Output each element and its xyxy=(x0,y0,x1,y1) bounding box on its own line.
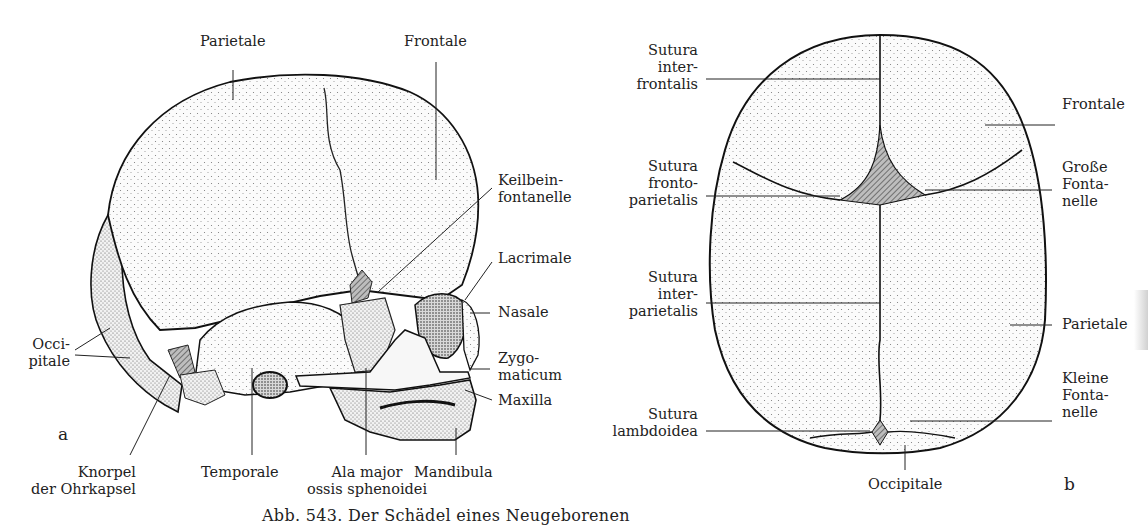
label-knorpel-ohrkapsel: Knorpel der Ohrkapsel xyxy=(26,464,136,498)
label-occipitale-b: Occipitale xyxy=(868,476,942,493)
label-ala-major: Ala major ossis sphenoidei xyxy=(304,464,430,498)
label-nasale: Nasale xyxy=(498,304,549,321)
nasal-bone xyxy=(462,300,479,370)
label-mandibula: Mandibula xyxy=(414,464,493,481)
label-frontale-b: Frontale xyxy=(1062,96,1125,113)
superior-skull xyxy=(710,35,1046,453)
label-grosse-fontanelle: Große Fonta- nelle xyxy=(1062,159,1109,210)
label-sutura-frontoparietalis: Sutura fronto- parietalis xyxy=(612,158,698,209)
ear-opening xyxy=(253,372,287,398)
label-parietale-b: Parietale xyxy=(1062,316,1128,333)
vault-outline xyxy=(710,35,1046,453)
label-frontale-a: Frontale xyxy=(404,33,467,50)
label-sutura-interfrontalis: Sutura inter- frontalis xyxy=(612,42,698,93)
label-kleine-fontanelle: Kleine Fonta- nelle xyxy=(1062,370,1109,421)
page-edge-shadow xyxy=(1134,290,1148,350)
skull-illustrations xyxy=(0,0,1148,525)
panel-letter-a: a xyxy=(58,424,68,444)
label-sutura-interparietalis: Sutura inter- parietalis xyxy=(612,269,698,320)
label-sutura-lambdoidea: Sutura lambdoidea xyxy=(612,406,698,440)
label-lacrimale: Lacrimale xyxy=(498,250,572,267)
figure-caption: Abb. 543. Der Schädel eines Neugeborenen xyxy=(262,506,630,525)
label-temporale: Temporale xyxy=(201,464,279,481)
label-zygomaticum: Zygo- maticum xyxy=(498,350,562,384)
label-occipitale-a: Occi- pitale xyxy=(24,336,70,370)
lateral-skull xyxy=(91,75,479,440)
label-maxilla: Maxilla xyxy=(498,392,552,409)
panel-letter-b: b xyxy=(1064,474,1075,494)
cranial-vault xyxy=(108,75,478,330)
label-keilbeinfontanelle: Keilbein- fontanelle xyxy=(498,172,572,206)
label-parietale-a: Parietale xyxy=(200,33,266,50)
